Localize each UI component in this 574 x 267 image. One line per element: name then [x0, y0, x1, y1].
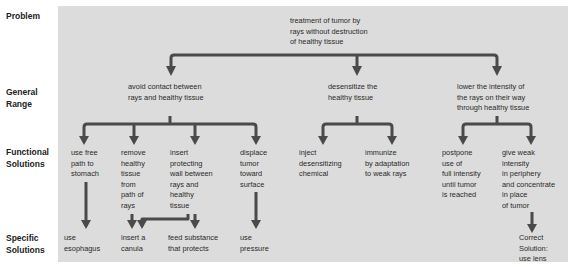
functional-insert-wall: insert protecting wall between rays and …	[170, 148, 213, 212]
functional-immunize: immunize by adaptation to weak rays	[365, 148, 409, 180]
functional-inject-chemical: inject desensitizing chemical	[299, 148, 342, 180]
functional-displace-tumor: displace tumor toward surface	[240, 148, 267, 190]
general-lower-intensity: lower the intensity of the rays on their…	[457, 82, 529, 114]
specific-use-esophagus: use esophagus	[64, 233, 100, 254]
specific-feed-substance: feed substance that protects	[168, 233, 218, 254]
functional-give-weak-intensity: give weak intensity in periphery and con…	[502, 148, 555, 212]
specific-use-pressure: use pressure	[240, 233, 269, 254]
specific-correct-solution-lens: Correct Solution: use lens	[519, 233, 548, 265]
functional-remove-tissue: remove healthy tissue from path of rays	[121, 148, 146, 212]
specific-insert-canula: insert a canula	[121, 233, 145, 254]
connector-arrows	[0, 0, 574, 267]
general-desensitize: desensitize the healthy tissue	[328, 82, 377, 103]
general-avoid-contact: avoid contact between rays and healthy t…	[128, 82, 204, 103]
problem-node: treatment of tumor by rays without destr…	[290, 16, 368, 48]
functional-use-free-path: use free path to stomach	[71, 148, 99, 180]
problem-branch-connector	[171, 55, 497, 67]
avoid-contact-branch-connector	[84, 124, 256, 138]
desensitize-branch-connector	[323, 124, 392, 138]
lower-intensity-branch-connector	[463, 124, 531, 138]
functional-postpone: postpone use of full intensity until tum…	[442, 148, 481, 201]
